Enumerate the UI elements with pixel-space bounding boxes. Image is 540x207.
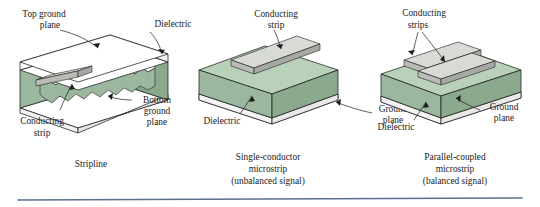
coupled-caption-line1: Parallel-coupled bbox=[424, 152, 486, 162]
bottom-divider bbox=[18, 198, 522, 200]
microstrip-conducting-strip-label-line2: strip bbox=[268, 20, 285, 30]
diagram-stripline: Top ground plane Dielectric Bottom groun… bbox=[20, 9, 191, 169]
coupled-ground-plane-label-line1: Ground bbox=[490, 102, 519, 112]
microstrip-dielectric-label: Dielectric bbox=[204, 116, 241, 126]
coupled-caption-line2: microstrip bbox=[436, 164, 475, 174]
coupled-conducting-strips-label-line2: strips bbox=[408, 20, 429, 30]
coupled-ground-plane-label-line2: plane bbox=[494, 113, 514, 123]
diagram-parallel-coupled-microstrip: Conducting strips Dielectric Ground plan… bbox=[378, 8, 521, 187]
microstrip-conducting-strip-label-line1: Conducting bbox=[254, 9, 298, 19]
microstrip-caption-line1: Single-conductor bbox=[236, 152, 301, 162]
microstrip-caption-line2: microstrip bbox=[249, 164, 288, 174]
stripline-bottom-ground-label-line3: plane bbox=[147, 117, 167, 127]
coupled-caption-line3: (balanced signal) bbox=[423, 176, 487, 187]
stripline-top-ground-label-line2: plane bbox=[40, 20, 60, 30]
stripline-top-ground-label-line1: Top ground bbox=[22, 9, 66, 19]
coupled-conducting-strips-label-line1: Conducting bbox=[402, 8, 446, 18]
stripline-bottom-ground-label-line2: ground bbox=[144, 106, 171, 116]
figure-canvas: Top ground plane Dielectric Bottom groun… bbox=[0, 0, 540, 207]
stripline-caption: Stripline bbox=[75, 159, 107, 169]
stripline-bottom-ground-label-line1: Bottom bbox=[143, 95, 172, 105]
stripline-conducting-strip-label-line2: strip bbox=[34, 128, 51, 138]
stripline-dielectric-label: Dielectric bbox=[155, 19, 192, 29]
diagram-single-conductor-microstrip: Conducting strip Dielectric Ground plane… bbox=[199, 9, 408, 187]
coupled-dielectric-label: Dielectric bbox=[378, 122, 415, 132]
microstrip-caption-line3: (unbalanced signal) bbox=[231, 176, 305, 187]
transmission-line-figure: Top ground plane Dielectric Bottom groun… bbox=[0, 0, 540, 207]
stripline-conducting-strip-label-line1: Conducting bbox=[20, 116, 64, 126]
